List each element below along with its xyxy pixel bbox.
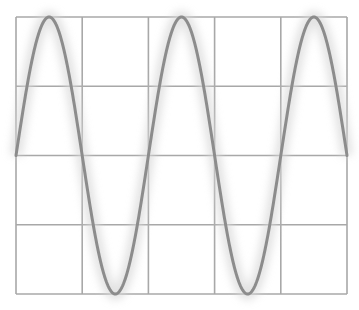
sine-wave-figure — [0, 0, 359, 310]
plot-canvas — [0, 0, 359, 310]
